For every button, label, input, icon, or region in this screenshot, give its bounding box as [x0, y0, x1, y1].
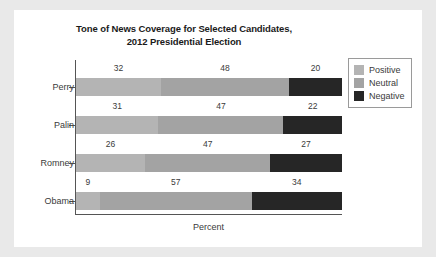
bar-value-label: 47 — [203, 139, 212, 149]
stacked-bar — [76, 192, 342, 210]
bar-segment-positive — [76, 192, 100, 210]
bar-value-label: 9 — [86, 177, 91, 187]
bar-segment-negative — [289, 78, 342, 96]
bar-segment-neutral — [100, 192, 252, 210]
bar-segment-negative — [270, 154, 342, 172]
bar-value-label: 57 — [171, 177, 180, 187]
bar-row: Palin314722 — [75, 100, 342, 134]
legend-swatch-icon — [354, 91, 364, 101]
bar-value-label: 31 — [112, 101, 121, 111]
x-axis-line — [75, 214, 342, 215]
bar-value-label: 47 — [216, 101, 225, 111]
bar-segment-positive — [76, 78, 161, 96]
bar-value-label: 27 — [301, 139, 310, 149]
bar-value-label: 20 — [311, 63, 320, 73]
y-axis-category-label: Obama — [44, 196, 74, 206]
legend-item-negative[interactable]: Negative — [354, 90, 405, 102]
y-axis-category-label: Romney — [40, 158, 74, 168]
bar-row: Perry324820 — [75, 62, 342, 96]
legend-item-positive[interactable]: Positive — [354, 64, 405, 76]
stacked-bar — [76, 116, 342, 134]
bar-value-label: 48 — [220, 63, 229, 73]
bar-segment-positive — [76, 154, 145, 172]
legend-item-neutral[interactable]: Neutral — [354, 77, 405, 89]
bar-segment-negative — [283, 116, 342, 134]
chart-title-line-2: 2012 Presidential Election — [14, 35, 354, 48]
bar-value-label: 22 — [308, 101, 317, 111]
bar-segment-neutral — [158, 116, 283, 134]
stacked-bar — [76, 78, 342, 96]
bar-value-label: 32 — [114, 63, 123, 73]
y-axis-category-label: Perry — [52, 82, 74, 92]
bar-segment-neutral — [145, 154, 270, 172]
bar-row: Obama95734 — [75, 176, 342, 210]
bar-segment-positive — [76, 116, 158, 134]
legend-label: Positive — [369, 65, 401, 75]
bar-segment-negative — [252, 192, 342, 210]
chart-title-line-1: Tone of News Coverage for Selected Candi… — [14, 22, 354, 35]
legend-swatch-icon — [354, 65, 364, 75]
chart-legend: PositiveNeutralNegative — [348, 58, 412, 108]
legend-swatch-icon — [354, 78, 364, 88]
legend-label: Negative — [369, 91, 405, 101]
bar-segment-neutral — [161, 78, 289, 96]
bar-row: Romney264727 — [75, 138, 342, 172]
legend-items: PositiveNeutralNegative — [354, 64, 405, 102]
bar-value-label: 26 — [106, 139, 115, 149]
stacked-bar — [76, 154, 342, 172]
chart-title: Tone of News Coverage for Selected Candi… — [14, 22, 354, 48]
plot-area: Perry324820Palin314722Romney264727Obama9… — [75, 60, 342, 215]
y-axis-category-label: Palin — [54, 120, 74, 130]
legend-label: Neutral — [369, 78, 398, 88]
x-axis-title: Percent — [75, 222, 342, 232]
chart-figure-panel: Tone of News Coverage for Selected Candi… — [14, 10, 422, 247]
bar-value-label: 34 — [292, 177, 301, 187]
